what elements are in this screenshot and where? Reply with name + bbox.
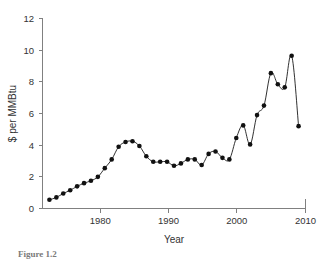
data-point <box>75 184 80 189</box>
data-point <box>262 103 267 108</box>
data-point <box>186 157 191 162</box>
data-point <box>96 175 101 180</box>
data-point <box>116 144 121 149</box>
data-point <box>165 159 170 164</box>
data-point <box>241 123 246 128</box>
x-tick-label-2010: 2010 <box>295 215 316 226</box>
y-tick-label-2: 2 <box>29 171 34 182</box>
x-tick-label-1980: 1980 <box>90 215 111 226</box>
x-tick-label-2000: 2000 <box>226 215 247 226</box>
y-axis-title: $ per MMBtu <box>7 85 18 142</box>
figure-caption: Figure 1.2 <box>18 249 318 259</box>
data-point <box>192 157 197 162</box>
price-line-chart: 0 2 4 6 8 10 12 1980 1990 2000 2010 $ pe… <box>0 0 331 259</box>
data-point <box>282 85 287 90</box>
data-point <box>179 161 184 166</box>
data-point <box>206 152 211 157</box>
x-tick-label-1990: 1990 <box>158 215 179 226</box>
figure-container: 0 2 4 6 8 10 12 1980 1990 2000 2010 $ pe… <box>0 0 331 259</box>
y-tick-label-10: 10 <box>23 45 34 56</box>
data-point <box>123 140 128 145</box>
data-point <box>296 124 301 129</box>
y-tick-label-0: 0 <box>29 203 34 214</box>
data-point <box>248 142 253 147</box>
data-point <box>61 191 66 196</box>
axes-group <box>43 19 306 209</box>
data-point <box>227 157 232 162</box>
data-point <box>54 195 59 200</box>
data-point <box>158 159 163 164</box>
y-tick-label-6: 6 <box>29 108 34 119</box>
data-point <box>213 149 218 154</box>
data-point <box>289 53 294 58</box>
x-axis-title: Year <box>164 234 185 245</box>
data-point <box>130 139 135 144</box>
y-tick-label-12: 12 <box>23 13 34 24</box>
data-point <box>255 113 260 118</box>
data-point <box>89 178 94 183</box>
data-point <box>276 82 281 87</box>
data-point <box>199 163 204 168</box>
data-point <box>82 181 87 186</box>
data-point <box>234 136 239 141</box>
data-point <box>68 188 73 193</box>
series-line-natural-gas-price <box>49 55 298 200</box>
figure-caption-label: Figure 1.2 <box>18 249 57 259</box>
data-point <box>151 159 156 164</box>
data-point <box>144 154 149 159</box>
data-point <box>172 163 177 168</box>
data-point <box>137 144 142 149</box>
x-tick-group: 1980 1990 2000 2010 <box>90 209 316 227</box>
data-point <box>109 157 114 162</box>
y-tick-label-4: 4 <box>29 140 34 151</box>
data-point <box>269 71 274 76</box>
series-marker-group <box>47 53 301 202</box>
data-point <box>102 166 107 171</box>
data-point <box>47 197 52 202</box>
y-tick-group: 0 2 4 6 8 10 12 <box>23 13 42 214</box>
y-tick-label-8: 8 <box>29 76 34 87</box>
data-point <box>220 156 225 161</box>
